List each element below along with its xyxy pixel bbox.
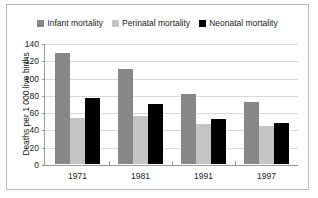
bar-group-1971: 1971 (46, 44, 109, 164)
x-axis-category-label-1981: 1981 (109, 171, 172, 181)
plot-wrapper: 020406080100120140 1971198119911997 (44, 44, 298, 166)
y-axis-tick-mark (42, 130, 45, 131)
bar-perinatal-1991 (196, 124, 211, 164)
legend-entry-perinatal-mortality: Perinatal mortality (112, 19, 190, 28)
legend-label-perinatal-mortality: Perinatal mortality (122, 19, 190, 28)
legend-swatch-infant-mortality (37, 20, 44, 27)
bar-infant-1981 (118, 69, 133, 164)
bar-group-1981: 1981 (109, 44, 172, 164)
y-axis-tick-mark (42, 61, 45, 62)
x-axis-category-label-1991: 1991 (172, 171, 235, 181)
bar-infant-1991 (181, 94, 196, 164)
y-axis-tick-label: 120 (25, 56, 39, 66)
chart-container: Infant mortality Perinatal mortality Neo… (6, 4, 309, 190)
bar-perinatal-1971 (70, 118, 85, 164)
bar-perinatal-1981 (133, 116, 148, 164)
bar-infant-1971 (55, 53, 70, 164)
bar-infant-1997 (244, 102, 259, 164)
y-axis-tick-mark (42, 113, 45, 114)
y-axis-tick-mark (42, 148, 45, 149)
bar-neonatal-1971 (85, 98, 100, 164)
y-axis-tick-mark (42, 96, 45, 97)
bar-neonatal-1981 (148, 104, 163, 165)
legend-entry-infant-mortality: Infant mortality (37, 19, 103, 28)
bar-perinatal-1997 (259, 126, 274, 164)
legend-swatch-perinatal-mortality (112, 20, 119, 27)
legend-swatch-neonatal-mortality (199, 20, 206, 27)
bar-groups: 1971198119911997 (46, 44, 298, 164)
bar-neonatal-1997 (274, 123, 289, 164)
gridline (45, 165, 298, 166)
x-axis-category-label-1971: 1971 (46, 171, 109, 181)
x-axis-category-label-1997: 1997 (235, 171, 298, 181)
y-axis-tick-label: 140 (25, 39, 39, 49)
y-axis-tick-label: 20 (30, 143, 39, 153)
y-axis-tick-label: 80 (30, 91, 39, 101)
legend-label-neonatal-mortality: Neonatal mortality (209, 19, 278, 28)
plot-area: 020406080100120140 1971198119911997 (44, 44, 298, 166)
chart-legend: Infant mortality Perinatal mortality Neo… (7, 19, 308, 28)
y-axis-tick-mark (42, 165, 45, 166)
legend-entry-neonatal-mortality: Neonatal mortality (199, 19, 278, 28)
y-axis-tick-mark (42, 44, 45, 45)
bar-group-1997: 1997 (235, 44, 298, 164)
legend-label-infant-mortality: Infant mortality (47, 19, 103, 28)
bar-neonatal-1991 (211, 119, 226, 164)
y-axis-tick-mark (42, 79, 45, 80)
bar-group-1991: 1991 (172, 44, 235, 164)
y-axis-tick-label: 60 (30, 108, 39, 118)
y-axis-tick-label: 40 (30, 125, 39, 135)
y-axis-tick-label: 100 (25, 74, 39, 84)
y-axis-tick-label: 0 (34, 160, 39, 170)
